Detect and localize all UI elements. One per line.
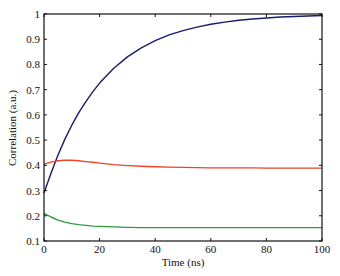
y-tick-label: 0.6 bbox=[26, 109, 40, 121]
y-tick-label: 0.5 bbox=[26, 134, 40, 146]
x-tick-label: 100 bbox=[314, 243, 331, 255]
x-tick-label: 40 bbox=[150, 243, 162, 255]
x-tick-label: 0 bbox=[41, 243, 47, 255]
y-tick-label: 0.1 bbox=[26, 235, 40, 247]
x-tick-label: 60 bbox=[205, 243, 217, 255]
y-tick-label: 0.4 bbox=[26, 159, 40, 171]
y-tick-label: 0.7 bbox=[26, 84, 40, 96]
x-axis-label: Time (ns) bbox=[162, 256, 205, 269]
y-tick-label: 0.9 bbox=[26, 33, 40, 45]
y-tick-labels: 0.10.20.30.40.50.60.70.80.91 bbox=[26, 8, 40, 247]
plot-lines bbox=[44, 16, 322, 228]
y-tick-label: 0.2 bbox=[26, 210, 40, 222]
y-tick-label: 0.3 bbox=[26, 185, 40, 197]
y-tick-label: 0.8 bbox=[26, 58, 40, 70]
series-green-line bbox=[44, 213, 322, 227]
axis-ticks bbox=[44, 14, 322, 241]
y-axis-label: Correlation (a.u.) bbox=[6, 90, 19, 166]
y-tick-label: 1 bbox=[35, 8, 41, 20]
x-tick-label: 20 bbox=[94, 243, 106, 255]
axes-frame bbox=[44, 14, 322, 241]
line-chart: 020406080100 0.10.20.30.40.50.60.70.80.9… bbox=[0, 0, 340, 276]
series-blue-line bbox=[44, 16, 322, 194]
x-tick-label: 80 bbox=[261, 243, 273, 255]
x-tick-labels: 020406080100 bbox=[41, 243, 331, 255]
series-red-line bbox=[44, 160, 322, 168]
